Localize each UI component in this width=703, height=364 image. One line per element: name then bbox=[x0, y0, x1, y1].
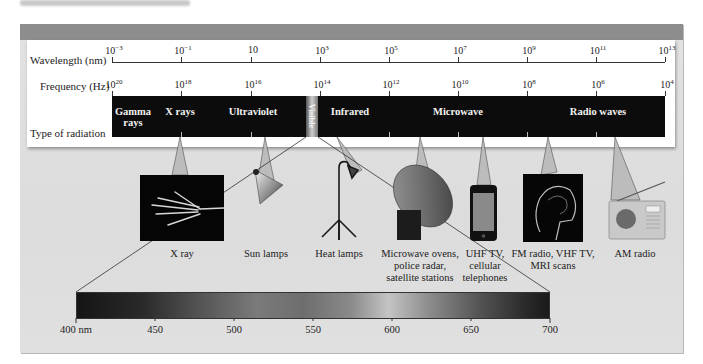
mri-head-icon bbox=[523, 174, 583, 242]
callout-fm-radio bbox=[541, 137, 557, 175]
label-fm-vhf-mri: FM radio, VHF TV, MRI scans bbox=[511, 248, 594, 272]
label-sun-lamps: Sun lamps bbox=[244, 248, 288, 260]
spectrum-tick-label: 500 bbox=[226, 324, 242, 335]
spectrum-tick-label: 600 bbox=[384, 324, 400, 335]
callout-uhf bbox=[477, 137, 491, 185]
spectrum-tick-label: 650 bbox=[463, 324, 479, 335]
label-xray: X ray bbox=[170, 248, 194, 260]
label-am-radio: AM radio bbox=[614, 248, 655, 260]
xray-hand-icon bbox=[140, 175, 224, 241]
cell-phone-icon bbox=[470, 185, 497, 241]
label-microwave-uses: Microwave ovens, police radar, satellite… bbox=[381, 248, 459, 284]
visible-spectrum-bar bbox=[76, 292, 550, 319]
callout-xray bbox=[172, 137, 188, 175]
spectrum-tick-label: 700 bbox=[542, 324, 558, 335]
label-heat-lamps: Heat lamps bbox=[315, 248, 363, 260]
spectrum-tick-label: 400 nm bbox=[60, 324, 92, 335]
callout-am-radio bbox=[611, 137, 640, 200]
heat-lamp-icon bbox=[322, 162, 358, 240]
spectrum-tick-label: 450 bbox=[147, 324, 163, 335]
label-uhf-cellular: UHF TV, cellular telephones bbox=[463, 248, 508, 284]
spectrum-tick-label: 550 bbox=[305, 324, 321, 335]
